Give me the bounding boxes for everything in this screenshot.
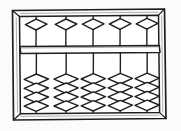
reckoning-bar	[20, 45, 160, 53]
abacus-illustration: Abacus line drawing abacus frame reckoni…	[0, 0, 181, 131]
abacus-drawing	[0, 0, 181, 131]
